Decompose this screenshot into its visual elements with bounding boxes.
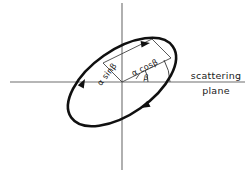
label-beta-angle: β	[144, 73, 149, 82]
label-alpha-sin-beta: α sinβ	[95, 61, 119, 88]
label-scattering-line2: plane	[202, 85, 230, 96]
figure-root: α sinβ α cosβ β scattering plane	[0, 0, 250, 175]
label-scattering-line1: scattering	[191, 70, 241, 81]
scattering-plane-diagram: α sinβ α cosβ β scattering plane	[0, 0, 250, 175]
